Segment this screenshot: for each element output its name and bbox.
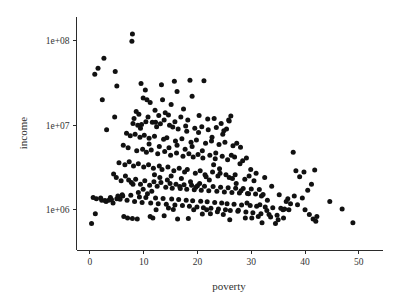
data-point (197, 181, 202, 186)
data-point (92, 72, 97, 77)
data-point (291, 150, 296, 155)
data-point (179, 176, 184, 181)
data-point (168, 153, 173, 158)
data-point (222, 140, 227, 145)
data-point (148, 100, 153, 105)
data-point (154, 207, 159, 212)
data-point (225, 201, 230, 206)
data-point (186, 216, 191, 221)
data-point (122, 162, 127, 167)
data-point (237, 161, 242, 166)
data-point (116, 160, 121, 165)
data-point (128, 193, 133, 198)
data-point (187, 204, 192, 209)
data-point (170, 186, 175, 191)
data-point (93, 211, 98, 216)
data-point (184, 129, 189, 134)
data-point (230, 176, 235, 181)
data-point (139, 81, 144, 86)
data-point (210, 135, 215, 140)
data-point (285, 196, 290, 201)
data-point (212, 116, 217, 121)
data-point (141, 165, 146, 170)
data-point (185, 118, 190, 123)
data-point (143, 88, 148, 93)
data-point (170, 125, 175, 130)
data-point (211, 184, 216, 189)
data-point (228, 208, 233, 213)
data-point (205, 117, 210, 122)
data-point (130, 182, 135, 187)
data-point (148, 201, 153, 206)
data-point (340, 207, 345, 212)
data-point (196, 130, 201, 135)
data-point (226, 185, 231, 190)
data-point (190, 144, 195, 149)
data-point (234, 181, 239, 186)
data-point (153, 108, 158, 113)
data-point (171, 207, 176, 212)
data-point (149, 189, 154, 194)
data-point (236, 208, 241, 213)
data-point (281, 215, 286, 220)
y-tick-label: 1e+06 (46, 205, 70, 215)
data-point (133, 177, 138, 182)
data-point (214, 125, 219, 130)
data-point (136, 190, 141, 195)
data-point (206, 188, 211, 193)
data-point (305, 188, 310, 193)
data-point (260, 220, 265, 225)
data-point (169, 174, 174, 179)
data-point (218, 171, 223, 176)
data-point (145, 191, 150, 196)
data-point (148, 214, 153, 219)
data-point (127, 159, 132, 164)
data-point (128, 133, 133, 138)
data-point (254, 171, 259, 176)
data-point (113, 69, 118, 74)
data-point (229, 190, 234, 195)
data-point (186, 151, 191, 156)
data-point (100, 97, 105, 102)
data-point (156, 113, 161, 118)
data-point (129, 39, 134, 44)
data-point (156, 201, 161, 206)
data-point (210, 169, 215, 174)
y-axis-ticks: 1e+061e+071e+08 (46, 36, 77, 215)
data-point (130, 121, 135, 126)
data-point (151, 166, 156, 171)
data-point (132, 199, 137, 204)
data-point (112, 114, 117, 119)
data-point (301, 169, 306, 174)
data-point (169, 102, 174, 107)
data-point (207, 153, 212, 158)
data-point (193, 185, 198, 190)
data-point (180, 203, 185, 208)
data-point (248, 167, 253, 172)
data-point (183, 147, 188, 152)
data-point (121, 143, 126, 148)
data-point (146, 114, 151, 119)
data-point (144, 150, 149, 155)
data-point (225, 157, 230, 162)
data-point (232, 202, 237, 207)
data-point (136, 161, 141, 166)
data-point (250, 210, 255, 215)
data-point (224, 127, 229, 132)
data-point (312, 168, 317, 173)
x-tick-label: 20 (193, 257, 203, 267)
data-point (238, 145, 243, 150)
data-point (196, 152, 201, 157)
data-point (213, 150, 218, 155)
data-point (191, 155, 196, 160)
data-point (158, 121, 163, 126)
data-point (197, 113, 202, 118)
data-point (198, 168, 203, 173)
data-point (140, 200, 145, 205)
x-tick-label: 30 (247, 257, 257, 267)
data-point (162, 149, 167, 154)
data-point (212, 200, 217, 205)
data-point (246, 191, 251, 196)
data-point (149, 147, 154, 152)
data-point (143, 119, 148, 124)
